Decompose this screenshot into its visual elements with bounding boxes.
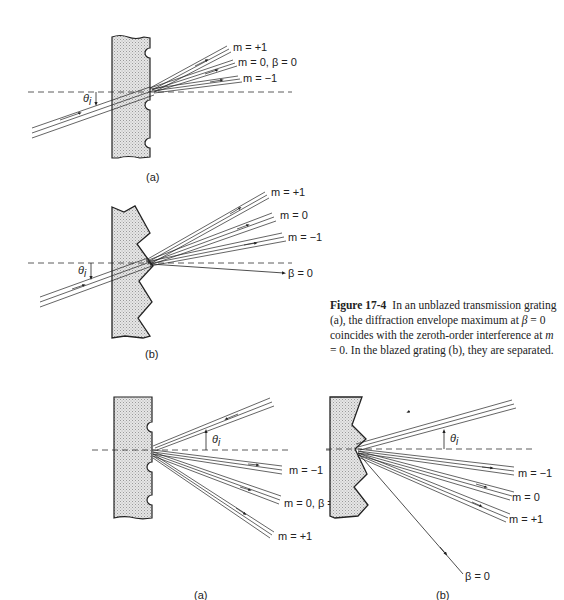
figure-number: Figure 17-4 xyxy=(330,299,386,311)
grating-unblazed xyxy=(114,397,152,519)
envelope-beam xyxy=(358,453,463,574)
order-plus1-beam xyxy=(358,453,510,522)
panel-label: (a) xyxy=(194,589,207,600)
order-minus1-beam xyxy=(153,450,282,474)
theta-label: θi xyxy=(450,432,459,447)
order-0-beam xyxy=(146,213,276,265)
panel-reflection-a: θi m = −1 m = 0, β = 0 m = +1 (a) xyxy=(92,397,343,600)
panel-label: (b) xyxy=(436,589,449,600)
figure-caption: Figure 17-4In an unblazed transmission g… xyxy=(330,298,558,358)
theta-label: θi xyxy=(83,92,92,107)
grating-blazed xyxy=(112,206,153,338)
envelope-beam xyxy=(150,264,284,273)
panel-reflection-b: θi m = −1 m = 0 m = +1 β = 0 (b) xyxy=(326,397,552,600)
order-label: m = +1 xyxy=(278,530,312,542)
grating-unblazed xyxy=(112,36,150,159)
incident-beam xyxy=(356,400,516,450)
order-label: m = +1 xyxy=(271,186,305,198)
panel-transmission-a: θi m = +1 m = 0, β = 0 m = −1 (a) xyxy=(28,36,297,184)
panel-label: (b) xyxy=(145,348,158,360)
envelope-label: β = 0 xyxy=(288,267,313,279)
order-label: m = 0 xyxy=(512,491,540,503)
envelope-label: β = 0 xyxy=(465,570,490,582)
order-label: m = 0 xyxy=(280,209,308,221)
caption-text: = 0. In the blazed grating (b), they are… xyxy=(330,344,554,356)
order-0-beam xyxy=(153,452,281,504)
theta-label: θi xyxy=(212,433,221,448)
theta-label: θi xyxy=(78,264,87,279)
order-label: m = +1 xyxy=(509,513,543,525)
order-label: m = −1 xyxy=(243,72,277,84)
order-plus1-beam xyxy=(146,192,269,264)
order-label: m = −1 xyxy=(289,464,323,476)
order-label: m = 0, β = 0 xyxy=(238,56,297,68)
order-label: m = +1 xyxy=(233,41,267,53)
order-label: m = −1 xyxy=(288,231,322,243)
panel-label: (a) xyxy=(146,171,159,183)
panel-transmission-b: θi m = +1 m = 0 m = −1 β = 0 (b) xyxy=(28,186,322,360)
order-label: m = −1 xyxy=(518,467,552,479)
caption-m: m xyxy=(545,329,553,341)
